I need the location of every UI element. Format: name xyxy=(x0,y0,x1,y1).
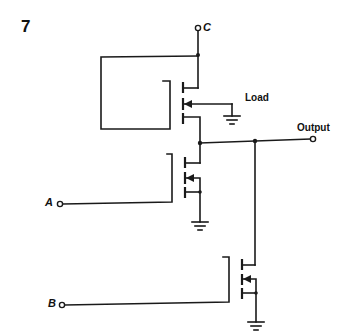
output-bus xyxy=(198,136,316,145)
input-transistor-b xyxy=(242,141,264,330)
load-label: Load xyxy=(245,92,269,103)
input-b-label: B xyxy=(48,297,56,309)
circuit-diagram xyxy=(0,0,347,335)
load-transistor xyxy=(183,82,240,143)
input-a-wire xyxy=(57,154,172,207)
output-label: Output xyxy=(297,122,330,133)
input-transistor-a xyxy=(185,143,208,230)
supply-label: C xyxy=(203,21,211,33)
input-b-wire xyxy=(59,257,229,308)
input-a-label: A xyxy=(45,196,53,208)
